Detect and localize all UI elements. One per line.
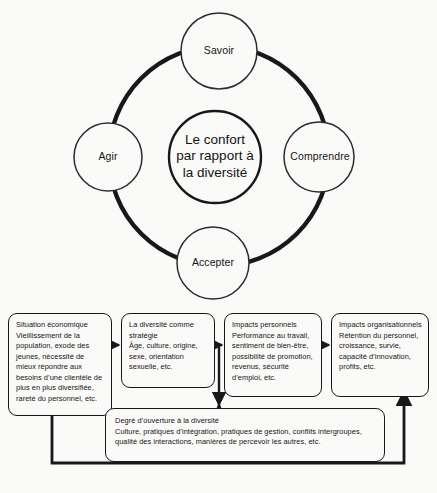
- flow-box-title: La diversité comme stratégie: [129, 320, 208, 341]
- spoke-circle-agir[interactable]: [74, 123, 142, 191]
- flow-box-title: Impacts organisationnels: [339, 320, 422, 331]
- flow-box-body: Performance au travail, sentiment de bie…: [232, 331, 315, 384]
- flow-box-title: Degré d’ouverture à la diversité: [115, 416, 375, 427]
- flow-box-body: Vieillissement de la population, exode d…: [16, 331, 105, 405]
- spoke-circle-comprendre[interactable]: [284, 122, 354, 192]
- flow-box-diversite-strategie[interactable]: La diversité comme stratégie Âge, cultur…: [121, 313, 215, 388]
- flow-box-impacts-personnels[interactable]: Impacts personnels Performance au travai…: [224, 313, 322, 397]
- flow-box-title: Impacts personnels: [232, 320, 315, 331]
- flow-box-title: Situation économique: [16, 320, 105, 331]
- flow-box-situation-economique[interactable]: Situation économique Vieillissement de l…: [8, 313, 112, 416]
- spoke-circle-savoir[interactable]: [181, 13, 257, 89]
- flow-box-body: Culture, pratiques d’intégration, pratiq…: [115, 427, 375, 448]
- hub-circle[interactable]: [169, 111, 261, 203]
- wheel-graphic: [0, 0, 437, 310]
- flow-box-body: Âge, culture, origine, sexe, orientation…: [129, 341, 208, 373]
- spoke-circle-accepter[interactable]: [177, 227, 249, 299]
- flow-box-degre-ouverture[interactable]: Degré d’ouverture à la diversité Culture…: [105, 408, 385, 462]
- diagram-canvas: Savoir Comprendre Accepter Agir Le confo…: [0, 0, 437, 493]
- flow-box-impacts-organisationnels[interactable]: Impacts organisationnels Rétention du pe…: [331, 313, 429, 397]
- flow-box-body: Rétention du personnel, croissance, surv…: [339, 331, 422, 373]
